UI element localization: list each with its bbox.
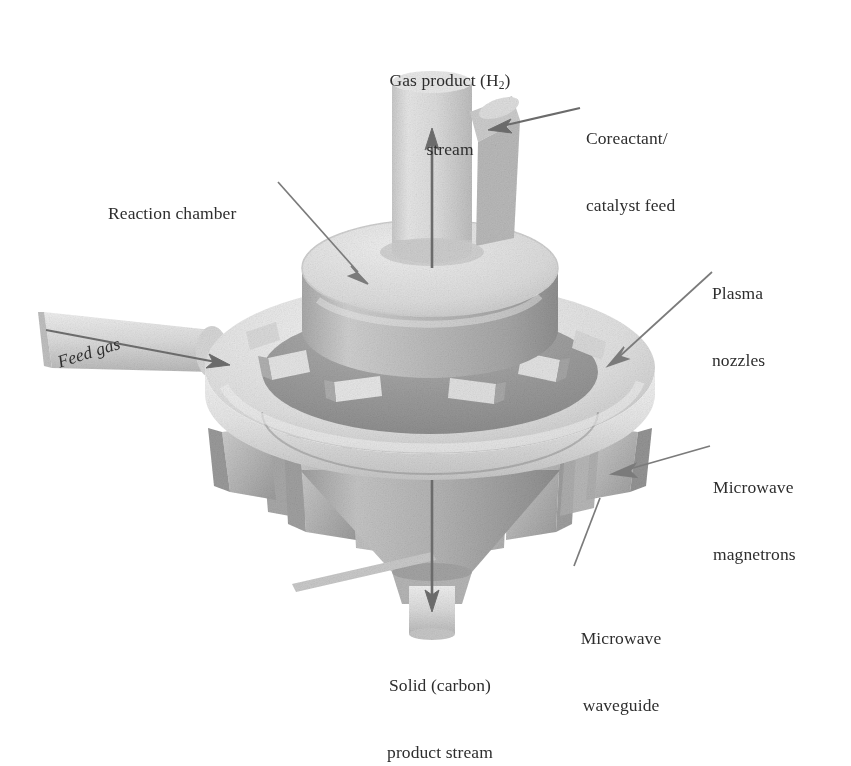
label-solid-product-stream: Solid (carbon) product stream [330, 629, 550, 766]
label-gas-product-stream: Gas product (H2) stream [345, 24, 555, 205]
label-gas-product-line2: stream [345, 138, 555, 160]
label-microwave-waveguide: Microwave waveguide [545, 582, 697, 761]
label-reaction-chamber: Reaction chamber [108, 157, 323, 269]
label-gas-product-line1: Gas product (H2) [345, 69, 555, 93]
label-microwave-magnetrons: Microwave magnetrons [713, 431, 845, 610]
label-coreactant-catalyst-feed: Coreactant/ catalyst feed [586, 82, 761, 261]
leader-plasma-nozzles [608, 272, 712, 366]
label-plasma-nozzles: Plasma nozzles [712, 237, 842, 416]
